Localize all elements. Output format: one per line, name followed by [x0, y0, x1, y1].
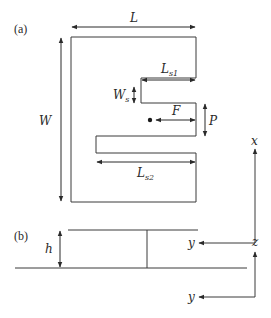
y-axis-label-a: y [187, 236, 195, 250]
panel-b-label: (b) [14, 229, 28, 243]
y-axis-label-b: y [187, 290, 195, 304]
feed-point-dot [148, 118, 152, 122]
panel-a-label: (a) [14, 22, 27, 36]
z-axis-label: z [251, 235, 259, 249]
x-axis-label: x [251, 134, 258, 148]
dimension-label-Ls2: Ls2 [136, 166, 154, 182]
dimension-label-Ws: Ws [113, 88, 129, 104]
dimension-label-L: L [129, 11, 138, 25]
dimension-label-h: h [45, 242, 53, 256]
dimension-label-F: F [171, 104, 181, 118]
dimension-label-W: W [39, 114, 53, 128]
dimension-label-Ls1: Ls1 [160, 62, 178, 78]
antenna-diagram: (a) L W Ls1 Ws F P Ls2 x y (b) h z y [0, 0, 271, 318]
dimension-label-P: P [208, 114, 218, 128]
